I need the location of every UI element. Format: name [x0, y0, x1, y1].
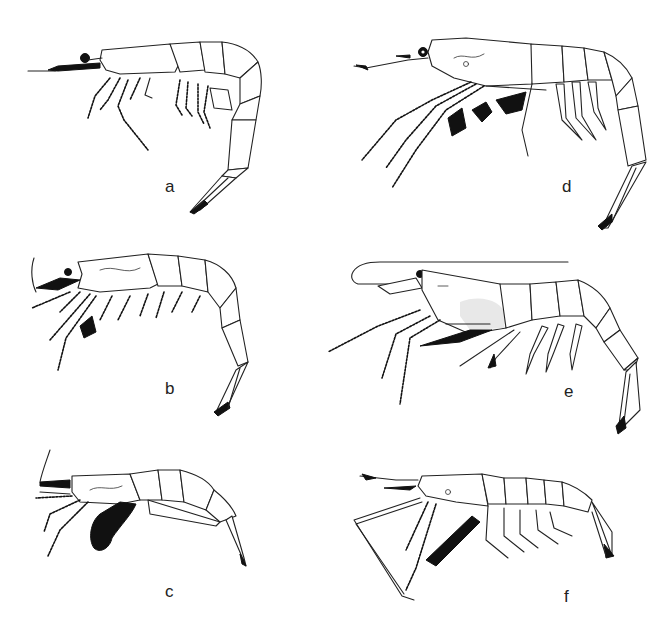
- panel-c: c: [0, 430, 336, 628]
- panel-f: f: [336, 440, 672, 628]
- shrimp-drawing-f: [336, 440, 672, 628]
- panel-label-f: f: [564, 588, 569, 605]
- shrimp-drawing-e: [320, 250, 672, 450]
- panel-d: d: [336, 0, 672, 240]
- panel-label-a: a: [165, 178, 174, 195]
- panel-e: e: [320, 250, 672, 450]
- shrimp-drawing-d: [336, 0, 672, 240]
- panel-b: b: [0, 240, 336, 420]
- panel-label-d: d: [562, 178, 571, 195]
- panel-label-c: c: [165, 583, 174, 600]
- panel-label-e: e: [564, 383, 573, 400]
- panel-label-b: b: [165, 380, 174, 397]
- panel-a: a: [0, 0, 336, 220]
